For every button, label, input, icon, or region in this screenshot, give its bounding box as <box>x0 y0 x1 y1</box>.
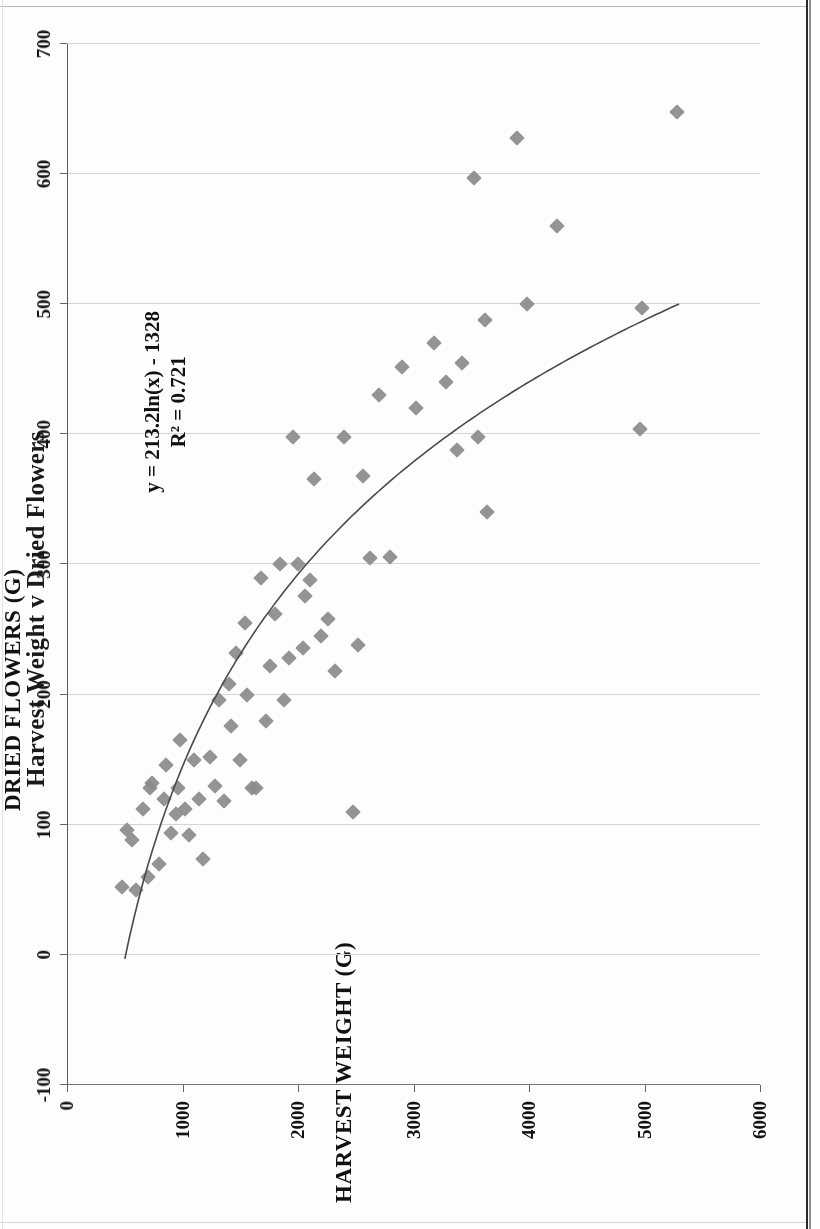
plot-area: -100010020030040050060070001000200030004… <box>67 44 760 1085</box>
tick-label-flowers-100: 100 <box>33 811 55 840</box>
tick-label-weight-0: 0 <box>56 1101 78 1111</box>
tick-label-weight-1000: 1000 <box>172 1101 194 1139</box>
tick-weight-3000 <box>414 1085 415 1092</box>
tick-flowers-300 <box>60 564 67 565</box>
tick-flowers-100 <box>60 824 67 825</box>
tick-label-weight-6000: 6000 <box>749 1101 771 1139</box>
tick-flowers-0 <box>60 954 67 955</box>
tick-label-weight-3000: 3000 <box>403 1101 425 1139</box>
tick-label-flowers--100: -100 <box>33 1068 55 1103</box>
tick-weight-0 <box>67 1085 68 1092</box>
tick-weight-5000 <box>645 1085 646 1092</box>
tick-weight-4000 <box>529 1085 530 1092</box>
trendline-path <box>125 304 679 959</box>
tick-label-flowers-300: 300 <box>33 550 55 579</box>
tick-label-flowers-200: 200 <box>33 680 55 709</box>
tick-label-flowers-0: 0 <box>33 950 55 960</box>
tick-flowers-600 <box>60 173 67 174</box>
tick-flowers--100 <box>60 1084 67 1085</box>
tick-weight-1000 <box>183 1085 184 1092</box>
trendline <box>67 44 760 1085</box>
tick-label-weight-4000: 4000 <box>518 1101 540 1139</box>
y-axis-title: DRIED FLOWERS (G) <box>0 0 26 1229</box>
tick-flowers-700 <box>60 43 67 44</box>
rotated-chart-canvas: Harvest Weight v Dried Flowers DRIED FLO… <box>0 0 820 1229</box>
tick-label-weight-5000: 5000 <box>634 1101 656 1139</box>
tick-label-flowers-500: 500 <box>33 290 55 319</box>
tick-label-flowers-400: 400 <box>33 420 55 449</box>
tick-label-flowers-600: 600 <box>33 160 55 189</box>
scanned-chart-page: Harvest Weight v Dried Flowers DRIED FLO… <box>0 0 820 1229</box>
tick-weight-6000 <box>760 1085 761 1092</box>
tick-flowers-400 <box>60 433 67 434</box>
tick-label-weight-2000: 2000 <box>287 1101 309 1139</box>
tick-weight-2000 <box>298 1085 299 1092</box>
tick-flowers-500 <box>60 303 67 304</box>
tick-label-flowers-700: 700 <box>33 30 55 59</box>
tick-flowers-200 <box>60 694 67 695</box>
